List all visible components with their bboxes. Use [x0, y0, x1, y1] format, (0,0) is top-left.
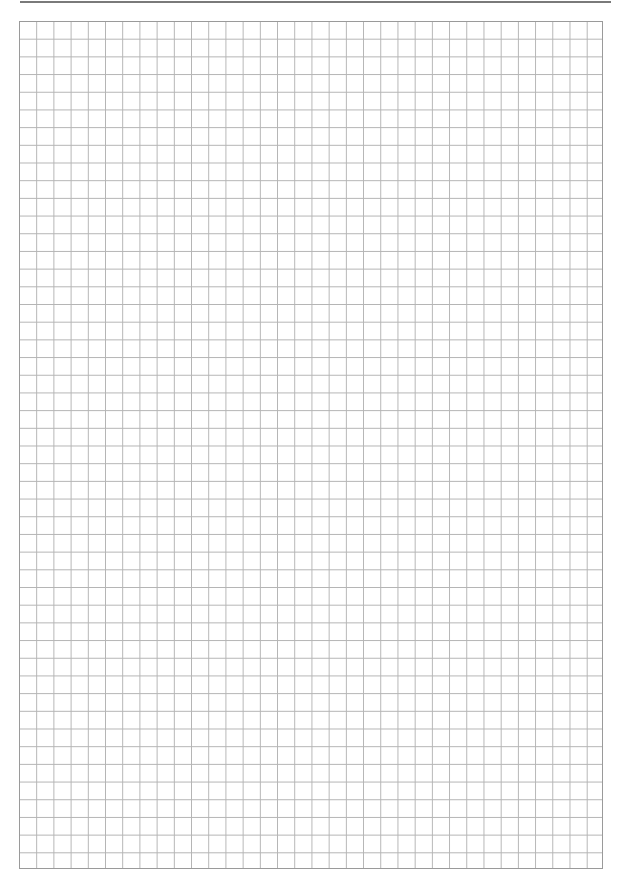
header-rule [20, 1, 611, 3]
graph-paper-grid [19, 21, 604, 870]
